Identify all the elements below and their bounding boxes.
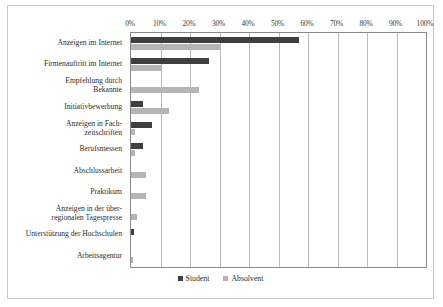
bar-absolvent-praktikum [131, 193, 146, 199]
category-label-line: Bekannte [93, 85, 122, 94]
x-tick-10: 10% [153, 18, 166, 29]
x-tick-90: 90% [389, 18, 402, 29]
x-tick-20: 20% [182, 18, 195, 29]
x-tick-50: 50% [271, 18, 284, 29]
category-label-abschlussarbeit: Abschlussarbeit [8, 160, 122, 181]
legend-label: Student [186, 274, 210, 283]
bar-student-firmenauftritt-im-internet [131, 58, 209, 64]
x-tick-0: 0% [125, 18, 135, 29]
category-label-line: Berufsmessen [79, 144, 122, 153]
category-label-anzeigen-im-internet: Anzeigen im Internet [8, 32, 122, 53]
category-label-line: Abschlussarbeit [73, 166, 122, 175]
x-tick-40: 40% [241, 18, 254, 29]
bar-absolvent-anzeigen-im-internet [131, 44, 220, 50]
x-tick-60: 60% [300, 18, 313, 29]
category-label-praktikum: Praktikum [8, 181, 122, 202]
legend-swatch-icon-student [178, 276, 183, 281]
bar-row-anzeigen-im-internet [131, 33, 426, 54]
category-label-line: Firmenauftritt im Internet [44, 59, 122, 68]
plot-area [130, 32, 427, 268]
category-label-line: Unterstützung der Hochschulen [26, 229, 122, 238]
x-tick-70: 70% [330, 18, 343, 29]
category-label-line: Empfehlung durch [65, 76, 122, 85]
x-tick-30: 30% [212, 18, 225, 29]
category-label-initiativbewerbung: Initiativbewerbung [8, 96, 122, 117]
bar-absolvent-anzeigen-in-fachzeitschriften [131, 129, 135, 135]
bar-row-initiativbewerbung [131, 97, 426, 118]
category-label-line: Initiativbewerbung [64, 102, 122, 111]
category-label-line: Arbeitsagentur [77, 251, 122, 260]
bar-absolvent-empfehlung-durch-bekannte [131, 87, 199, 93]
x-tick-80: 80% [359, 18, 372, 29]
bar-rows [131, 33, 426, 267]
category-label-berufsmessen: Berufsmessen [8, 138, 122, 159]
x-axis-tick-labels: 0%10%20%30%40%50%60%70%80%90%100% [122, 18, 427, 32]
chart-legend: StudentAbsolvent [8, 274, 433, 283]
legend-item-absolvent[interactable]: Absolvent [223, 274, 263, 283]
bar-absolvent-arbeitsagentur [131, 257, 133, 263]
bar-row-empfehlung-durch-bekannte [131, 76, 426, 97]
category-label-unterst-tzung-der-hochschulen: Unterstützung der Hochschulen [8, 223, 122, 244]
bar-row-berufsmessen [131, 139, 426, 160]
category-label-line: regionalen Tagespresse [52, 213, 122, 222]
category-label-empfehlung-durch-bekannte: Empfehlung durchBekannte [8, 75, 122, 96]
category-label-line: zeitschriften [84, 128, 122, 137]
legend-label: Absolvent [231, 274, 263, 283]
bar-absolvent-anzeigen-in-der-berregionalen-tagespresse [131, 214, 137, 220]
bar-student-berufsmessen [131, 143, 143, 149]
bar-row-unterst-tzung-der-hochschulen [131, 224, 426, 245]
bar-absolvent-initiativbewerbung [131, 108, 169, 114]
legend-item-student[interactable]: Student [178, 274, 210, 283]
bar-row-anzeigen-in-fachzeitschriften [131, 118, 426, 139]
bar-absolvent-berufsmessen [131, 150, 135, 156]
bar-row-abschlussarbeit [131, 161, 426, 182]
bar-row-firmenauftritt-im-internet [131, 54, 426, 75]
bar-row-praktikum [131, 182, 426, 203]
category-label-line: Praktikum [90, 187, 122, 196]
category-label-line: Anzeigen in der über- [56, 204, 122, 213]
chart-figure: 0%10%20%30%40%50%60%70%80%90%100% Anzeig… [7, 5, 434, 299]
bar-row-anzeigen-in-der-berregionalen-tagespresse [131, 203, 426, 224]
bar-row-arbeitsagentur [131, 246, 426, 267]
legend-swatch-icon-absolvent [223, 276, 228, 281]
category-axis-labels: Anzeigen im InternetFirmenauftritt im In… [8, 32, 126, 266]
bar-student-unterst-tzung-der-hochschulen [131, 229, 134, 235]
bar-absolvent-abschlussarbeit [131, 172, 146, 178]
x-tick-100: 100% [417, 18, 434, 29]
category-label-anzeigen-in-fachzeitschriften: Anzeigen in Fach-zeitschriften [8, 117, 122, 138]
bar-student-anzeigen-in-fachzeitschriften [131, 122, 152, 128]
category-label-line: Anzeigen in Fach- [66, 119, 122, 128]
bar-student-anzeigen-im-internet [131, 37, 299, 43]
bar-absolvent-firmenauftritt-im-internet [131, 65, 161, 71]
category-label-firmenauftritt-im-internet: Firmenauftritt im Internet [8, 53, 122, 74]
category-label-arbeitsagentur: Arbeitsagentur [8, 245, 122, 266]
category-label-line: Anzeigen im Internet [57, 38, 122, 47]
bar-student-initiativbewerbung [131, 101, 143, 107]
category-label-anzeigen-in-der-berregionalen-tagespresse: Anzeigen in der über-regionalen Tagespre… [8, 202, 122, 223]
